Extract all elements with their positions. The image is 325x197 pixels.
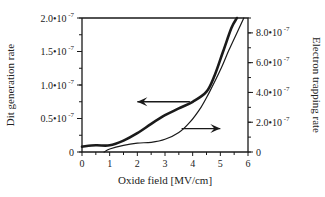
x-tick-label: 6 <box>246 158 251 169</box>
plot-frame <box>82 18 248 152</box>
x-tick-label: 2 <box>135 158 140 169</box>
right-y-tick-label: 4.0•10 -7 <box>256 85 290 98</box>
left-arrow-icon <box>137 97 190 106</box>
left-y-tick-label: 1.5•10 -7 <box>40 44 74 57</box>
x-tick-label: 1 <box>107 158 112 169</box>
x-axis-title: Oxide field [MV/cm] <box>118 174 212 186</box>
right-y-axis-title: Electron trapping rate <box>311 37 323 133</box>
electron-trapping-curve <box>104 18 244 152</box>
chart: 0123456 00.5•10 -71.0•10 -71.5•10 -72.0•… <box>0 0 325 197</box>
x-axis-ticks: 0123456 <box>80 152 251 169</box>
left-y-axis-ticks: 00.5•10 -71.0•10 -71.5•10 -72.0•10 -7 <box>40 11 82 158</box>
right-y-tick-label: 2.0•10 -7 <box>256 115 290 128</box>
left-y-tick-label: 0.5•10 -7 <box>40 111 74 124</box>
right-y-tick-label: 6.0•10 -7 <box>256 55 290 68</box>
right-y-tick-label: 8.0•10 -7 <box>256 25 290 38</box>
left-y-tick-label: 1.0•10 -7 <box>40 78 74 91</box>
left-y-axis-title: Dit generation rate <box>4 44 16 127</box>
x-tick-label: 0 <box>80 158 85 169</box>
right-y-axis-ticks: 02.0•10 -74.0•10 -76.0•10 -78.0•10 -7 <box>248 18 290 158</box>
x-tick-label: 3 <box>163 158 168 169</box>
x-tick-label: 5 <box>218 158 223 169</box>
left-y-tick-label: 0 <box>69 147 74 158</box>
x-tick-label: 4 <box>190 158 195 169</box>
left-y-tick-label: 2.0•10 -7 <box>40 11 74 24</box>
data-series <box>82 18 244 152</box>
axis-indicator-arrows <box>137 97 220 133</box>
right-y-tick-label: 0 <box>256 147 261 158</box>
